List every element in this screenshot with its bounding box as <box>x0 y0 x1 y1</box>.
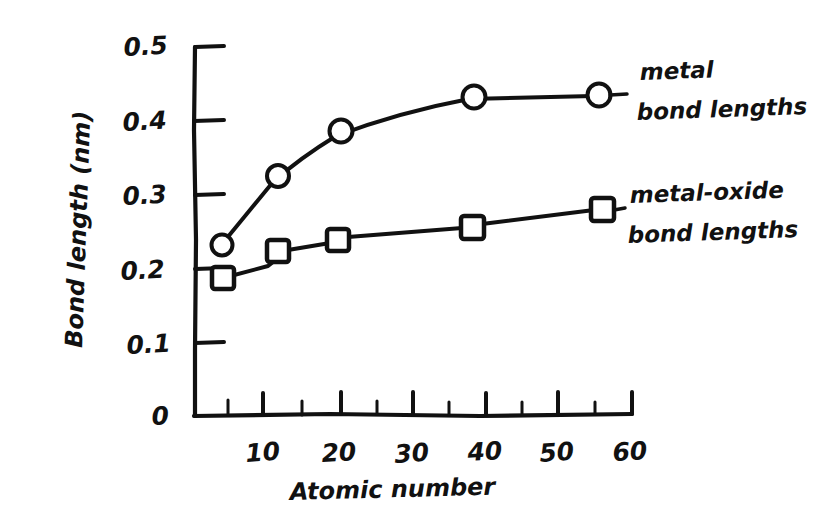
y-axis-title: Bond length (nm) <box>60 110 96 348</box>
series-metal-bond-lengths <box>212 84 611 256</box>
x-axis-title: Atomic number <box>287 473 497 506</box>
data-point-metal-1 <box>212 235 233 256</box>
x-tick-labels: 10 20 30 40 50 60 <box>244 436 648 469</box>
x-tick-label-60: 60 <box>612 436 648 467</box>
annotation-metal-oxide-line1: metal-oxide <box>629 177 784 208</box>
data-point-oxide-3 <box>327 229 349 251</box>
y-tick-0.3 <box>195 194 224 195</box>
y-tick-label-0.2: 0.2 <box>120 255 166 286</box>
y-axis-line <box>194 47 196 416</box>
annotation-metal-oxide-leader <box>614 208 625 210</box>
x-axis-ticks <box>228 392 632 415</box>
x-tick-label-30: 30 <box>393 438 430 469</box>
x-tick-label-20: 20 <box>321 437 357 468</box>
data-point-metal-5 <box>588 84 611 107</box>
y-tick-label-0.3: 0.3 <box>122 180 168 211</box>
y-tick-label-0.5: 0.5 <box>123 31 169 62</box>
data-point-oxide-2 <box>267 240 289 262</box>
series-metal-oxide-bond-lengths <box>212 198 614 289</box>
y-tick-labels: 0.5 0.4 0.3 0.2 0.1 0 <box>120 31 172 431</box>
data-point-metal-3 <box>330 120 353 143</box>
annotation-metal: metal bond lengths <box>610 56 808 125</box>
y-tick-0.1 <box>195 342 224 343</box>
data-point-oxide-4 <box>461 216 484 239</box>
y-tick-label-0.4: 0.4 <box>122 106 168 137</box>
x-tick-label-40: 40 <box>466 436 503 467</box>
hand-drawn-line-chart: 0.5 0.4 0.3 0.2 0.1 0 10 20 30 40 50 60 … <box>0 0 827 519</box>
data-point-oxide-5 <box>591 198 614 221</box>
x-tick-label-10: 10 <box>244 437 281 468</box>
chart-container: 0.5 0.4 0.3 0.2 0.1 0 10 20 30 40 50 60 … <box>0 0 827 519</box>
annotation-metal-leader <box>610 94 627 95</box>
annotation-metal-line2: bond lengths <box>636 93 807 125</box>
y-tick-label-0.1: 0.1 <box>126 329 172 360</box>
data-point-metal-2 <box>267 165 289 187</box>
annotation-metal-oxide-line2: bond lengths <box>627 216 798 248</box>
y-tick-0.4 <box>194 120 224 121</box>
x-tick-label-50: 50 <box>538 437 575 468</box>
annotation-metal-oxide: metal-oxide bond lengths <box>614 177 799 248</box>
y-tick-label-0: 0 <box>151 401 170 431</box>
annotation-metal-line1: metal <box>639 56 715 85</box>
y-tick-0.5 <box>195 46 224 47</box>
y-axis-ticks <box>194 46 224 343</box>
data-point-oxide-1 <box>212 267 234 289</box>
data-point-metal-4 <box>463 86 486 109</box>
